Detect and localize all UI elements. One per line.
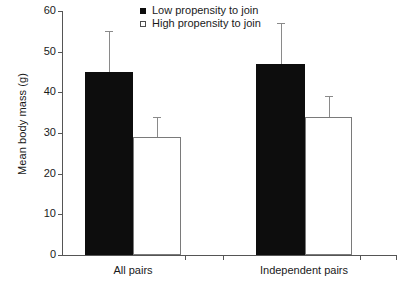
plot-area: All pairs Independent pairs (62, 11, 397, 255)
errorbar-independent-pairs-high-propensity (329, 96, 330, 116)
x-tick-label-independent-pairs: Independent pairs (260, 264, 348, 276)
errorbar-cap-independent-pairs-low-propensity (277, 23, 285, 24)
errorbar-cap-independent-pairs-high-propensity (325, 96, 333, 97)
x-tick-1 (185, 255, 186, 260)
y-tick-label-60: 60 (22, 4, 56, 16)
bar-independent-pairs-high-propensity[interactable] (305, 117, 352, 255)
y-tick-label-50: 50 (22, 45, 56, 57)
y-tick-10 (58, 214, 62, 215)
x-tick-2 (223, 255, 224, 260)
y-tick-label-10: 10 (22, 207, 56, 219)
errorbar-independent-pairs-low-propensity (281, 23, 282, 64)
bar-all-pairs-high-propensity[interactable] (133, 137, 181, 255)
x-tick-label-all-pairs: All pairs (113, 264, 152, 276)
x-tick-3 (360, 255, 361, 260)
y-tick-0 (58, 255, 62, 256)
y-tick-label-30: 30 (22, 126, 56, 138)
y-tick-60 (58, 11, 62, 12)
x-tick-4 (396, 255, 397, 260)
y-tick-50 (58, 52, 62, 53)
y-tick-label-40: 40 (22, 85, 56, 97)
y-tick-label-20: 20 (22, 167, 56, 179)
x-axis-line (62, 255, 397, 256)
errorbar-all-pairs-low-propensity (109, 31, 110, 72)
y-tick-label-0: 0 (22, 248, 56, 260)
y-axis-line (62, 11, 63, 255)
y-tick-40 (58, 92, 62, 93)
errorbar-cap-all-pairs-low-propensity (105, 31, 113, 32)
y-tick-30 (58, 133, 62, 134)
bar-chart-figure: Mean body mass (g) 60 50 40 30 20 10 0 L… (0, 0, 403, 282)
errorbar-all-pairs-high-propensity (157, 117, 158, 137)
bar-independent-pairs-low-propensity[interactable] (256, 64, 305, 255)
bar-all-pairs-low-propensity[interactable] (85, 72, 133, 255)
y-tick-20 (58, 174, 62, 175)
errorbar-cap-all-pairs-high-propensity (153, 117, 161, 118)
